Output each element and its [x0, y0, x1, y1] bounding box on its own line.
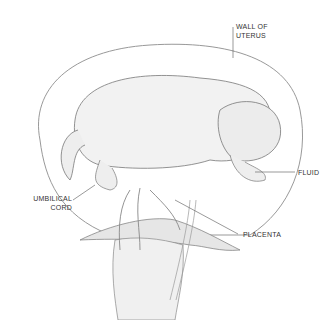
cord-leader [73, 185, 95, 200]
label-fluid: FLUID [298, 168, 319, 177]
illustration [0, 0, 326, 320]
fetus-in-uterus-diagram: WALL OF UTERUS FLUID UMBILICAL CORD PLAC… [0, 0, 326, 320]
label-line: UTERUS [236, 31, 268, 40]
fetus-tail [61, 130, 85, 180]
fetus-head [218, 102, 281, 161]
label-line: WALL OF [236, 22, 268, 31]
label-line: CORD [16, 203, 72, 212]
label-placenta: PLACENTA [243, 230, 281, 239]
label-line: UMBILICAL [16, 194, 72, 203]
uterine-horn [113, 238, 183, 320]
label-umbilical-cord: UMBILICAL CORD [16, 194, 72, 212]
label-wall-of-uterus: WALL OF UTERUS [236, 22, 268, 40]
